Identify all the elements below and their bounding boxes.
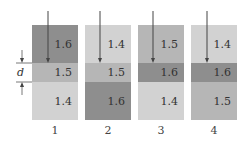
- incident-light-arrow-icon: [46, 11, 50, 63]
- incident-light-arrow-icon: [205, 11, 209, 63]
- thickness-label: d: [17, 66, 24, 79]
- incident-light-arrow-icon: [151, 11, 155, 63]
- arrows-overlay: [0, 0, 250, 144]
- incident-light-arrow-icon: [98, 11, 102, 63]
